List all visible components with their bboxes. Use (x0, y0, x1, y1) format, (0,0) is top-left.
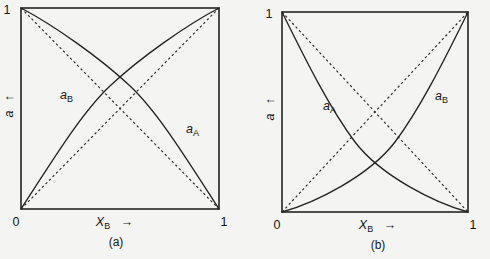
x-tick-max-b: 1 (470, 218, 477, 232)
curve-label-left-b: aA (323, 99, 336, 115)
curve-label-left-subscript-a: B (67, 94, 73, 104)
curve-label-right-subscript-b: B (442, 95, 448, 105)
y-axis-arrow-b: ↑ (263, 98, 277, 104)
curve-label-left-symbol-a: a (60, 88, 67, 102)
x-axis-arrow-a: → (121, 215, 134, 229)
y-axis-title-b: a (263, 113, 277, 120)
x-axis-arrow-b: → (384, 218, 397, 232)
curve-label-left-subscript-b: A (330, 105, 336, 115)
x-axis-title-subscript-b: B (367, 224, 373, 234)
y-axis-title-group-b: ↑ a (263, 98, 277, 121)
curve-label-right-symbol-b: a (435, 89, 442, 103)
panel-b-plot: 1 ↑ a 0 1 XB → aA aB (b) (245, 0, 490, 259)
curve-label-right-b: aB (435, 89, 448, 105)
panel-caption-a: (a) (109, 235, 124, 249)
panel-b: 1 ↑ a 0 1 XB → aA aB (b) (245, 0, 490, 259)
y-axis-title-group-a: ↑ a (2, 95, 16, 118)
curve-label-right-subscript-a: A (193, 128, 199, 138)
y-tick-max-a: 1 (4, 3, 11, 17)
panel-a: 1 ↑ a 0 1 XB → aB aA (a) (0, 0, 245, 259)
y-axis-title-a: a (2, 110, 16, 117)
x-axis-title-b: XB (358, 218, 373, 234)
panel-a-plot: 1 ↑ a 0 1 XB → aB aA (a) (0, 0, 245, 259)
x-axis-title-subscript-a: B (104, 221, 110, 231)
curve-label-right-symbol-a: a (186, 122, 193, 136)
x-axis-title-a: XB (95, 215, 110, 231)
x-tick-min-a: 0 (13, 215, 20, 229)
curve-label-left-a: aB (60, 88, 73, 104)
panel-caption-b: (b) (371, 238, 386, 252)
activity-composition-figure: 1 ↑ a 0 1 XB → aB aA (a) (0, 0, 490, 259)
x-tick-max-a: 1 (221, 215, 228, 229)
curve-label-right-a: aA (186, 122, 199, 138)
curve-label-left-symbol-b: a (323, 99, 330, 113)
y-axis-arrow-a: ↑ (2, 95, 16, 101)
y-tick-max-b: 1 (266, 7, 273, 21)
x-tick-min-b: 0 (274, 218, 281, 232)
